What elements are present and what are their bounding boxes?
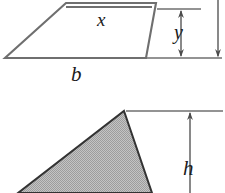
parallelogram-group — [5, 3, 156, 58]
y-dimension-group — [146, 9, 222, 58]
triangle-group — [18, 111, 152, 193]
label-x: x — [97, 10, 105, 29]
label-b: b — [71, 64, 82, 85]
triangle-shape — [18, 111, 152, 193]
label-h: h — [183, 158, 194, 179]
geometry-figure: x b y h — [0, 0, 225, 193]
total-height-dimension-group — [215, 0, 221, 58]
parallelogram-outline — [5, 3, 156, 58]
label-y: y — [174, 22, 183, 42]
